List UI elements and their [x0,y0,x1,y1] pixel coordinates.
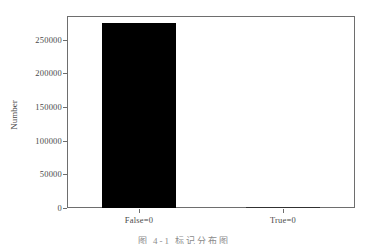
y-axis-tick-label: 250000 [35,36,62,44]
y-axis-tick-mark [63,40,67,41]
plot-area [67,16,355,208]
y-axis-tick-label: 0 [58,204,62,212]
x-axis-tick-mark [139,209,140,213]
y-axis-tick-mark [63,174,67,175]
y-axis-tick-mark [63,73,67,74]
x-axis-tick-mark [283,209,284,213]
y-axis-tick-mark [63,141,67,142]
y-axis-tick-label: 150000 [35,103,62,111]
y-axis-tick-label: 200000 [35,69,62,77]
y-axis-tick-label: 100000 [35,137,62,145]
bar-false-0 [102,23,176,208]
y-axis-title: Number [9,85,19,145]
x-axis-tick-label: False=0 [125,215,153,225]
x-axis-tick-label: True=0 [270,215,296,225]
figure-caption: 图 4-1 标记分布图 [0,236,368,244]
y-axis-tick-label: 50000 [40,170,62,178]
y-axis-tick-mark [63,107,67,108]
y-axis-tick-mark [63,208,67,209]
bar-chart-figure: 050000100000150000200000250000 False=0Tr… [0,0,368,244]
bar-true-0 [246,207,320,208]
